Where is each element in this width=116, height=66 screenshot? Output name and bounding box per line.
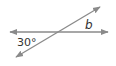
angle-label-b: b — [85, 18, 93, 32]
intersecting-lines-diagram: 30° b — [0, 0, 116, 66]
angle-label-30: 30° — [17, 36, 37, 49]
